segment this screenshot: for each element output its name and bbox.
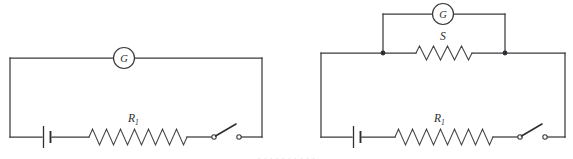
battery-cell <box>44 126 51 148</box>
resistor-r1-label: R1 <box>127 112 139 127</box>
battery-cell <box>354 126 361 148</box>
resistor-r1-label-sub: 1 <box>441 118 445 127</box>
resistor-r1 <box>89 129 187 145</box>
resistor-r1-label-main: R <box>433 112 441 124</box>
switch-lever[interactable] <box>522 124 543 136</box>
galvanometer-label: G <box>439 9 447 20</box>
switch-terminal-right <box>237 135 241 139</box>
resistor-shunt-s-label: S <box>440 30 446 42</box>
junction-dot-right <box>503 51 508 56</box>
resistor-r1-label-main: R <box>127 112 135 124</box>
switch-lever[interactable] <box>216 124 237 136</box>
resistor-r1-label: R1 <box>433 112 445 127</box>
caption-bleed: · · · · · · · · · · <box>0 153 573 159</box>
circuit-right: S R1 <box>321 4 565 149</box>
circuit-figure: R1 G <box>0 0 573 159</box>
galvanometer-label: G <box>120 53 128 64</box>
resistor-r1 <box>395 129 493 145</box>
open-switch[interactable] <box>212 124 241 139</box>
open-switch[interactable] <box>518 124 547 139</box>
circuit-svg-canvas: R1 G <box>0 0 573 159</box>
galvanometer: G <box>114 48 135 69</box>
resistor-shunt-s <box>416 46 472 60</box>
junction-dot-left <box>381 51 386 56</box>
resistor-r1-label-sub: 1 <box>135 118 139 127</box>
circuit-left: R1 G <box>10 48 262 149</box>
switch-terminal-right <box>543 135 547 139</box>
galvanometer: G <box>433 4 454 25</box>
